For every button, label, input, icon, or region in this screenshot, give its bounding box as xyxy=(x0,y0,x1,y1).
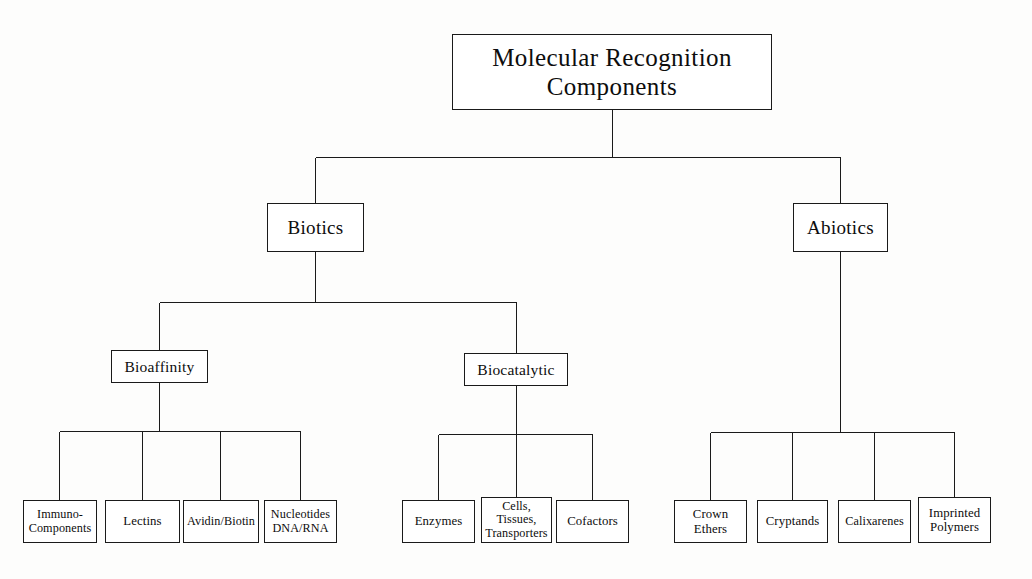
node-bioaffinity[interactable]: Bioaffinity xyxy=(111,350,208,383)
node-cryptands[interactable]: Cryptands xyxy=(757,500,828,543)
node-immuno-components[interactable]: Immuno- Components xyxy=(23,500,97,543)
node-calixarenes[interactable]: Calixarenes xyxy=(838,500,911,543)
node-crown-ethers[interactable]: Crown Ethers xyxy=(674,500,747,543)
node-enzymes[interactable]: Enzymes xyxy=(402,500,475,543)
node-root[interactable]: Molecular Recognition Components xyxy=(452,34,772,110)
node-avidin-biotin[interactable]: Avidin/Biotin xyxy=(183,500,259,543)
node-biocatalytic[interactable]: Biocatalytic xyxy=(464,353,568,386)
node-biotics[interactable]: Biotics xyxy=(267,203,364,252)
node-abiotics[interactable]: Abiotics xyxy=(793,203,888,252)
diagram-canvas: Molecular Recognition Components Biotics… xyxy=(0,0,1032,579)
node-cofactors[interactable]: Cofactors xyxy=(556,500,629,543)
node-cells-tissues-transporters[interactable]: Cells, Tissues, Transporters xyxy=(481,497,552,543)
node-nucleotides-dna-rna[interactable]: Nucleotides DNA/RNA xyxy=(264,500,337,543)
node-lectins[interactable]: Lectins xyxy=(105,500,180,543)
node-imprinted-polymers[interactable]: Imprinted Polymers xyxy=(918,497,991,543)
